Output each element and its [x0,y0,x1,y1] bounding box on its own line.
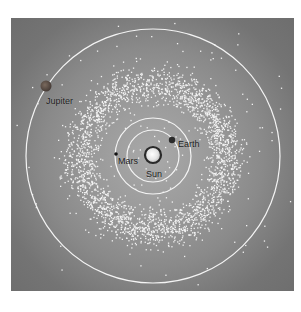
earth-label: Earth [178,139,200,149]
solar-system-diagram [11,18,294,291]
diagram-panel [11,18,294,291]
jupiter-icon [41,81,52,92]
sun-icon [145,147,161,163]
mars-label: Mars [118,156,138,166]
earth-icon [169,137,175,143]
jupiter-label: Jupiter [46,96,73,106]
sun-label: Sun [146,169,162,179]
